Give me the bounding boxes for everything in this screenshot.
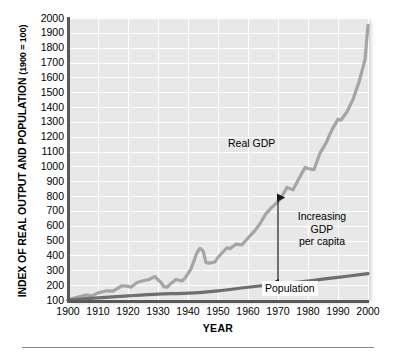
- annotation-real-gdp: Real GDP: [228, 137, 275, 150]
- annotation-increasing-gdp-per-capita: Increasing GDP per capita: [287, 210, 357, 248]
- annotation-percapita-line1: Increasing: [287, 210, 357, 223]
- footer-rule: [22, 347, 374, 348]
- annotation-population: Population: [262, 281, 318, 296]
- annotation-percapita-line3: per capita: [287, 235, 357, 248]
- plot-area: [0, 0, 395, 357]
- annotation-percapita-line2: GDP: [287, 223, 357, 236]
- chart-figure: INDEX OF REAL OUTPUT AND POPULATION (190…: [0, 0, 395, 357]
